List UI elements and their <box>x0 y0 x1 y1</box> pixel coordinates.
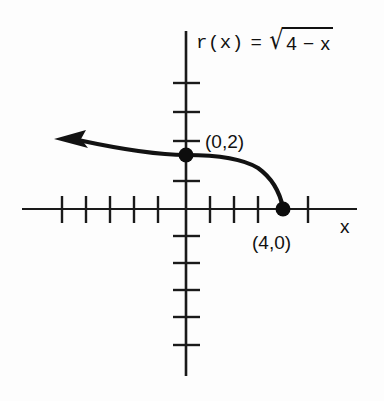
function-title-lhs: r(x) <box>196 27 244 53</box>
point-marker-b <box>276 202 291 217</box>
x-axis-label: x <box>340 216 350 238</box>
radicand: 4 − x <box>282 27 333 56</box>
radical-sign-icon: √ <box>269 26 284 55</box>
point-marker-a <box>179 148 194 163</box>
radical-expression: √ 4 − x <box>268 27 334 56</box>
point-label-a: (0,2) <box>205 131 244 153</box>
figure-canvas: r(x) = √ 4 − x (0,2) (4,0) x <box>0 0 384 401</box>
graph-svg <box>0 0 384 401</box>
function-title-equals: = <box>244 27 268 53</box>
function-title: r(x) = √ 4 − x <box>196 27 333 56</box>
point-label-b: (4,0) <box>252 232 291 254</box>
